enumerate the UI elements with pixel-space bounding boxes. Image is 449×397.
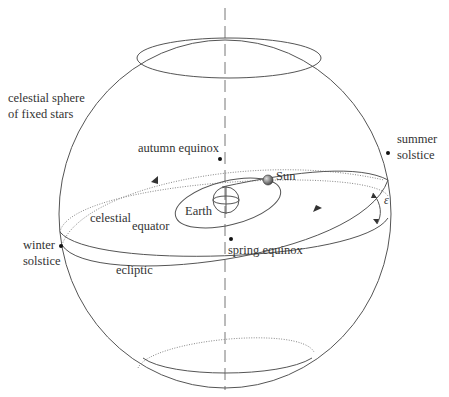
- label-sphere-line2: of fixed stars: [8, 107, 73, 121]
- north-cap-circle: [137, 38, 321, 78]
- autumn-equinox-point: [218, 157, 222, 161]
- label-earth: Earth: [185, 204, 213, 218]
- label-ecliptic: ecliptic: [116, 263, 153, 277]
- label-summer-line2: solstice: [397, 148, 435, 162]
- ecliptic-upper-front: [222, 171, 388, 187]
- sun-icon: [263, 175, 273, 185]
- summer-solstice-point: [386, 151, 390, 155]
- ecliptic-direction-arrow-back: [151, 176, 158, 184]
- label-equator-line1: celestial: [90, 211, 131, 225]
- label-obliquity: ε: [384, 193, 389, 207]
- label-winter-line2: solstice: [23, 254, 61, 268]
- winter-solstice-point: [59, 244, 63, 248]
- label-winter-line1: winter: [23, 238, 56, 252]
- label-summer-line1: summer: [397, 132, 438, 146]
- label-sun: Sun: [276, 169, 296, 183]
- label-equator-line2: equator: [132, 219, 170, 233]
- ecliptic-back: [62, 170, 384, 245]
- ecliptic-direction-arrow-front: [313, 205, 322, 212]
- celestial-sphere-diagram: celestial sphere of fixed stars autumn e…: [0, 0, 449, 397]
- label-sphere-line1: celestial sphere: [8, 91, 85, 105]
- label-spring-equinox: spring equinox: [228, 243, 303, 257]
- south-cap-front: [143, 358, 312, 373]
- south-cap-back: [138, 338, 314, 368]
- label-autumn-equinox: autumn equinox: [138, 141, 220, 155]
- spring-equinox-point: [229, 237, 233, 241]
